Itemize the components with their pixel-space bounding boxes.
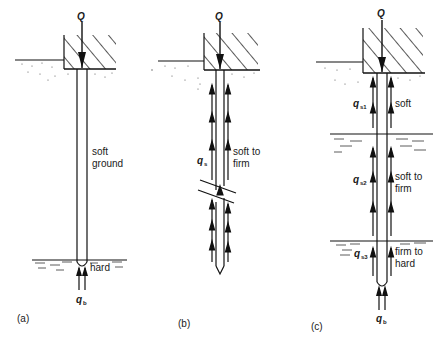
load-label: Q xyxy=(377,8,385,19)
base-resistance-sub: b xyxy=(83,300,87,306)
pile xyxy=(377,73,387,286)
shaft-resistance-sub: s xyxy=(204,161,208,167)
base-resistance-arrows xyxy=(376,285,388,310)
shaft-label-s1: q xyxy=(353,98,359,109)
panel-caption-c: (c) xyxy=(311,321,323,332)
base-resistance-sub: b xyxy=(383,319,387,325)
soil-label-line2: firm xyxy=(233,158,250,169)
shaft-sub-s2: s2 xyxy=(360,180,367,186)
soil-label-layer2-line1: soft to xyxy=(395,171,423,182)
soil-label-line2: ground xyxy=(92,158,123,169)
panel-a: Q soft ground hard q b (a) xyxy=(15,11,127,324)
pile-cap xyxy=(64,35,116,69)
panel-b: Q q s soft to firm (b) xyxy=(151,11,260,329)
load-label: Q xyxy=(77,11,85,22)
shaft-sub-s1: s1 xyxy=(360,104,367,110)
shaft-resistance-label: q xyxy=(197,155,203,166)
base-resistance-label: q xyxy=(376,313,382,324)
shaft-label-s2: q xyxy=(353,174,359,185)
load-label: Q xyxy=(215,11,223,22)
shaft-resistance-arrows xyxy=(371,78,394,276)
panel-caption-b: (b) xyxy=(178,318,190,329)
soil-label-line1: soft to xyxy=(233,146,261,157)
hard-label: hard xyxy=(90,262,110,273)
soil-label-layer3-line1: firm to xyxy=(395,246,423,257)
pile-load-diagram: Q soft ground hard q b (a) xyxy=(0,0,445,342)
soil-label-line1: soft xyxy=(92,146,108,157)
pile xyxy=(198,70,236,274)
base-resistance-arrows xyxy=(76,266,88,290)
panel-caption-a: (a) xyxy=(17,313,29,324)
stratum-boundary-1 xyxy=(330,134,433,152)
pile-cap xyxy=(363,28,425,73)
shaft-label-s3: q xyxy=(354,248,360,259)
base-resistance-label: q xyxy=(76,294,82,305)
soil-label-layer1: soft xyxy=(395,98,411,109)
panel-c: Q q s1 soft q s2 soft to firm q s3 firm … xyxy=(311,8,433,332)
shaft-resistance-arrows xyxy=(210,85,231,262)
soil-label-layer3-line2: hard xyxy=(395,258,415,269)
pile xyxy=(77,69,87,266)
soil-label-layer2-line2: firm xyxy=(395,183,412,194)
shaft-sub-s3: s3 xyxy=(361,254,368,260)
pile-cap xyxy=(204,33,260,70)
